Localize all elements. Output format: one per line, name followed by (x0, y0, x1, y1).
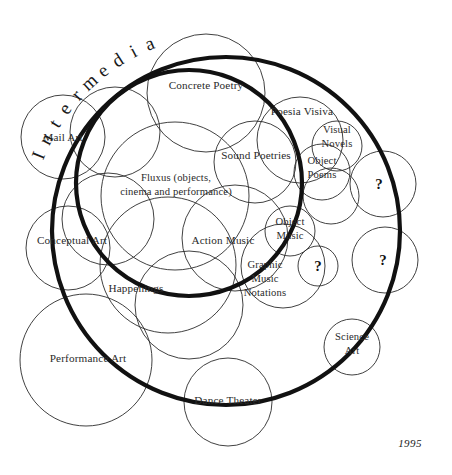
label-science-art: ScienceArt (335, 331, 369, 356)
diagram-canvas: Mail ArtConcrete PoetryPoesia VisivaVisu… (0, 0, 452, 475)
label-unknown-center: ? (314, 258, 322, 274)
title-char: e (54, 98, 76, 118)
circle-happenings[interactable] (100, 197, 236, 333)
title-char: i (126, 40, 141, 61)
label-happenings: Happenings (109, 282, 164, 294)
diagram-date: 1995 (398, 437, 422, 449)
title-char: d (108, 48, 128, 71)
circle-blank-center-low (135, 251, 243, 359)
diagram-title: Intermedia (27, 32, 158, 162)
label-sound-poetries: Sound Poetries (221, 149, 291, 161)
label-conceptual-art: Conceptual Art (37, 234, 108, 246)
label-poesia-visiva: Poesia Visiva (271, 105, 333, 117)
label-visual-novels: VisualNovels (322, 124, 353, 149)
label-fluxus: Fluxus (objects,cinema and performance) (120, 172, 232, 198)
label-object-poems: ObjectPoems (307, 155, 336, 180)
intermedia-diagram: Mail ArtConcrete PoetryPoesia VisivaVisu… (0, 0, 452, 475)
label-unknown-upper-right: ? (375, 176, 383, 192)
title-char: I (27, 148, 49, 162)
label-unknown-lower-right: ? (379, 252, 387, 268)
label-object-music: ObjectMusic (275, 216, 304, 241)
label-concrete-poetry: Concrete Poetry (169, 79, 244, 91)
title-char: a (142, 32, 158, 55)
label-action-music: Action Music (191, 234, 254, 246)
circle-concrete-poetry[interactable] (147, 34, 265, 152)
title-char: t (44, 115, 65, 131)
label-performance-art: Performance Art (50, 352, 127, 364)
label-dance-theater: Dance Theater (194, 394, 261, 406)
